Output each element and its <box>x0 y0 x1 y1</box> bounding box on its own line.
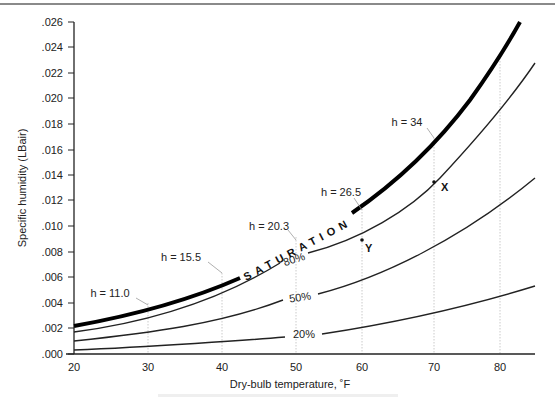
faint-caption <box>158 394 398 397</box>
y-tick-label: .004 <box>42 297 63 309</box>
y-tick-label: .016 <box>42 144 63 156</box>
x-tick-label: 50 <box>290 361 302 373</box>
saturation-curve <box>74 278 240 326</box>
x-tick-label: 40 <box>216 361 228 373</box>
enthalpy-leaders <box>136 128 434 305</box>
point-y-marker <box>360 238 364 242</box>
x-tick-label: 20 <box>68 361 80 373</box>
rh-20-curve <box>74 337 285 350</box>
y-tick-label: .000 <box>42 348 63 360</box>
point-y-label: Y <box>365 242 373 254</box>
y-tick-label: .024 <box>42 41 63 53</box>
x-axis-title: Dry-bulb temperature, ˚F <box>230 378 351 390</box>
point-x-label: X <box>441 181 449 193</box>
x-tick-label: 60 <box>356 361 368 373</box>
x-tick-label: 70 <box>428 361 440 373</box>
x-tick-label: 80 <box>494 361 506 373</box>
y-tick-label: .014 <box>42 169 63 181</box>
y-ticks <box>68 22 74 354</box>
y-tick-label: .022 <box>42 67 63 79</box>
x-tick-label: 30 <box>142 361 154 373</box>
enthalpy-label-15-5: h = 15.5 <box>161 251 201 263</box>
enthalpy-label-20-3: h = 20.3 <box>249 220 289 232</box>
y-tick-label: .026 <box>42 16 63 28</box>
y-tick-label: .020 <box>42 92 63 104</box>
rh-20-label: 20% <box>293 328 315 340</box>
y-tick-label: .012 <box>42 194 63 206</box>
rh-20-curve-upper <box>322 286 535 334</box>
y-tick-label: .002 <box>42 322 63 334</box>
y-tick-label: .008 <box>42 246 63 258</box>
y-tick-labels: .000 .002 .004 .006 .008 .010 .012 .014 … <box>42 16 63 360</box>
y-axis-title: Specific humidity (LBair) <box>16 129 28 248</box>
point-x-marker <box>432 180 436 184</box>
psychrometric-chart: .000 .002 .004 .006 .008 .010 .012 .014 … <box>0 0 555 403</box>
saturation-curve-upper <box>352 22 520 213</box>
y-tick-label: .018 <box>42 118 63 130</box>
enthalpy-label-26-5: h = 26.5 <box>321 186 361 198</box>
y-tick-label: .006 <box>42 271 63 283</box>
enthalpy-label-11: h = 11.0 <box>90 287 129 299</box>
y-tick-label: .010 <box>42 220 63 232</box>
enthalpy-label-34: h = 34 <box>392 116 423 128</box>
rh-50-label: 50% <box>288 289 312 304</box>
x-tick-labels: 20 30 40 50 60 70 80 <box>68 361 506 373</box>
